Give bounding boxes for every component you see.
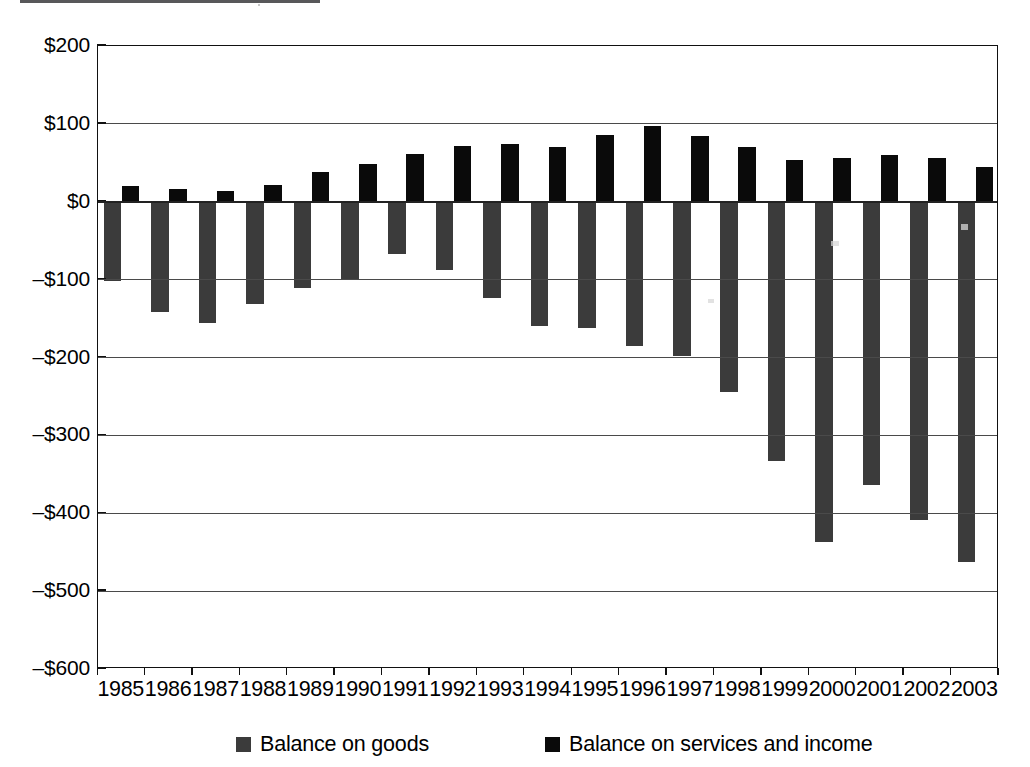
bar-goods-1989 (294, 202, 312, 288)
bar-goods-1992 (436, 202, 454, 271)
x-axis-tick (713, 668, 714, 675)
bar-services-1987 (217, 191, 235, 202)
bar-services-1985 (122, 186, 140, 202)
x-axis-tick-label: 2000 (808, 677, 855, 701)
x-axis-tick (428, 668, 429, 675)
bar-services-1991 (406, 154, 424, 202)
legend-swatch-icon-services (545, 737, 560, 752)
x-axis-tick-label: 2001 (856, 677, 903, 701)
y-axis-tick (97, 589, 106, 590)
x-axis-tick (523, 668, 524, 675)
x-axis-tick (381, 668, 382, 675)
gridline--200 (98, 357, 997, 358)
plot-area (97, 45, 998, 668)
bar-goods-1998 (720, 202, 738, 392)
bar-services-1997 (691, 136, 709, 201)
y-axis-tick (97, 278, 106, 279)
x-axis-tick (333, 668, 334, 675)
bar-services-1986 (169, 189, 187, 201)
legend-label-goods: Balance on goods (260, 732, 429, 756)
x-axis-tick-label: 1992 (429, 677, 476, 701)
scan-speckle (831, 241, 839, 246)
gridline--400 (98, 513, 997, 514)
y-axis-tick-label: –$100 (2, 268, 90, 289)
x-axis-tick (476, 668, 477, 675)
x-axis: 1985198619871988198919901991199219931994… (97, 668, 998, 708)
x-axis-tick (144, 668, 145, 675)
x-axis-tick-label: 1993 (476, 677, 523, 701)
x-axis-tick-label: 1988 (239, 677, 286, 701)
bar-goods-1990 (341, 202, 359, 279)
bar-goods-2003 (958, 202, 976, 563)
x-axis-tick-label: 1998 (713, 677, 760, 701)
y-axis-tick-label: –$300 (2, 423, 90, 444)
bar-goods-1999 (768, 202, 786, 461)
x-axis-tick (902, 668, 903, 675)
x-axis-tick-label: 2003 (951, 677, 998, 701)
bar-services-2002 (928, 158, 946, 202)
x-axis-tick-label: 1990 (334, 677, 381, 701)
x-axis-tick-label: 1985 (97, 677, 144, 701)
y-axis-tick-label: –$500 (2, 579, 90, 600)
bar-services-1998 (738, 147, 756, 202)
x-axis-tick (997, 668, 998, 675)
scan-speckle (708, 299, 714, 303)
x-axis-tick (239, 668, 240, 675)
y-axis-tick (97, 667, 106, 668)
x-axis-tick-label: 1986 (144, 677, 191, 701)
chart-legend: Balance on goods Balance on services and… (0, 725, 1030, 767)
x-axis-tick (191, 668, 192, 675)
bar-services-2003 (976, 167, 994, 202)
x-axis-tick (618, 668, 619, 675)
bar-goods-1996 (626, 202, 644, 346)
legend-item-balance-on-services-and-income: Balance on services and income (545, 729, 873, 759)
bar-services-2000 (833, 158, 851, 202)
x-axis-tick (665, 668, 666, 675)
y-axis-tick (97, 512, 106, 513)
chart-figure: $200$100$0–$100–$200–$300–$400–$500–$600… (0, 0, 1030, 767)
x-axis-tick (286, 668, 287, 675)
x-axis-tick-label: 1996 (619, 677, 666, 701)
bar-goods-1987 (199, 202, 217, 323)
gridline--100 (98, 279, 997, 280)
x-axis-tick-label: 1989 (287, 677, 334, 701)
bar-services-1994 (549, 147, 567, 202)
legend-label-services: Balance on services and income (569, 732, 873, 756)
y-axis-tick (97, 122, 106, 123)
y-axis: $200$100$0–$100–$200–$300–$400–$500–$600 (0, 45, 90, 668)
y-axis-tick-label: –$400 (2, 501, 90, 522)
gridline-0 (98, 201, 997, 202)
title-artifact-mark (258, 4, 260, 6)
scan-speckle (961, 224, 968, 230)
legend-swatch-icon-goods (236, 737, 251, 752)
gridline--500 (98, 591, 997, 592)
bar-goods-2001 (863, 202, 881, 485)
x-axis-tick-label: 1997 (666, 677, 713, 701)
bar-goods-1991 (388, 202, 406, 254)
y-axis-tick (97, 44, 106, 45)
bar-goods-2002 (910, 202, 928, 521)
y-axis-tick-label: $0 (2, 190, 90, 211)
x-axis-tick-label: 1999 (761, 677, 808, 701)
bar-services-1992 (454, 146, 472, 201)
x-axis-tick-label: 1987 (192, 677, 239, 701)
bar-services-2001 (881, 155, 899, 202)
bar-goods-2000 (815, 202, 833, 542)
x-axis-tick (808, 668, 809, 675)
x-axis-tick (950, 668, 951, 675)
title-underline-rule (20, 0, 320, 3)
x-axis-tick-label: 2002 (903, 677, 950, 701)
bar-services-1990 (359, 164, 377, 201)
bar-services-1988 (264, 185, 282, 202)
bar-goods-1985 (104, 202, 122, 281)
x-axis-tick-label: 1994 (524, 677, 571, 701)
x-axis-tick (97, 668, 98, 675)
y-axis-tick (97, 434, 106, 435)
bar-goods-1995 (578, 202, 596, 328)
legend-item-balance-on-goods: Balance on goods (236, 729, 429, 759)
bar-services-1993 (501, 144, 519, 202)
gridline--300 (98, 435, 997, 436)
x-axis-tick (855, 668, 856, 675)
x-axis-tick-label: 1991 (382, 677, 429, 701)
x-axis-tick (571, 668, 572, 675)
